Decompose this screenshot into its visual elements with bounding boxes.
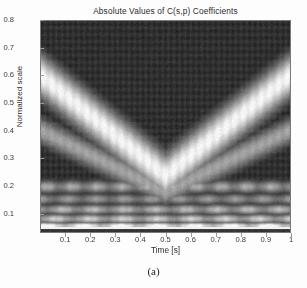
x-tick-mark [140,233,141,237]
y-tick-label: 0.3 [0,153,14,162]
x-tick-mark [90,233,91,237]
figure-scalogram: Absolute Values of C(s,p) Coefficients N… [0,0,307,288]
x-axis-label: Time [s] [40,245,291,255]
x-tick-mark [241,233,242,237]
y-tick-mark [40,75,44,76]
y-tick-label: 0.8 [0,15,14,24]
y-tick-label: 0.6 [0,70,14,79]
y-tick-mark [40,186,44,187]
y-axis-label: Normalized scale [15,42,24,152]
y-tick-mark [40,48,44,49]
x-tick-mark [216,233,217,237]
y-tick-label: 0.1 [0,209,14,218]
y-tick-mark [40,158,44,159]
x-tick-mark [166,233,167,237]
y-tick-label: 0.5 [0,98,14,107]
scalogram-image [41,21,290,232]
y-tick-mark [40,20,44,21]
x-tick-mark [266,233,267,237]
figure-caption: (a) [0,265,307,277]
x-tick-mark [191,233,192,237]
x-tick-mark [291,233,292,237]
x-tick-mark [115,233,116,237]
y-tick-label: 0.4 [0,126,14,135]
y-tick-label: 0.2 [0,181,14,190]
y-tick-label: 0.7 [0,43,14,52]
x-tick-mark [65,233,66,237]
chart-title: Absolute Values of C(s,p) Coefficients [40,6,291,16]
y-tick-mark [40,103,44,104]
y-tick-mark [40,214,44,215]
y-tick-mark [40,131,44,132]
plot-area[interactable] [40,20,291,233]
